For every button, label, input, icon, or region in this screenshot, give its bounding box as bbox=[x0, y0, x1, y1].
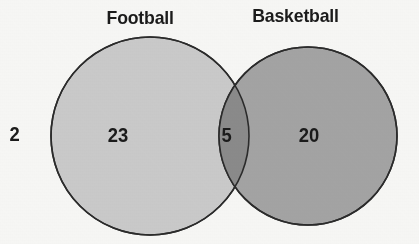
venn-diagram-graphic bbox=[0, 0, 419, 244]
count-basketball-only: 20 bbox=[299, 125, 319, 145]
set-label-football: Football bbox=[107, 8, 174, 27]
count-football-only: 23 bbox=[108, 125, 128, 145]
count-outside-sets: 2 bbox=[9, 124, 19, 144]
count-intersection: 5 bbox=[221, 125, 231, 145]
venn-diagram-canvas: Football Basketball 2 23 5 20 bbox=[0, 0, 419, 244]
set-label-basketball: Basketball bbox=[252, 6, 339, 25]
